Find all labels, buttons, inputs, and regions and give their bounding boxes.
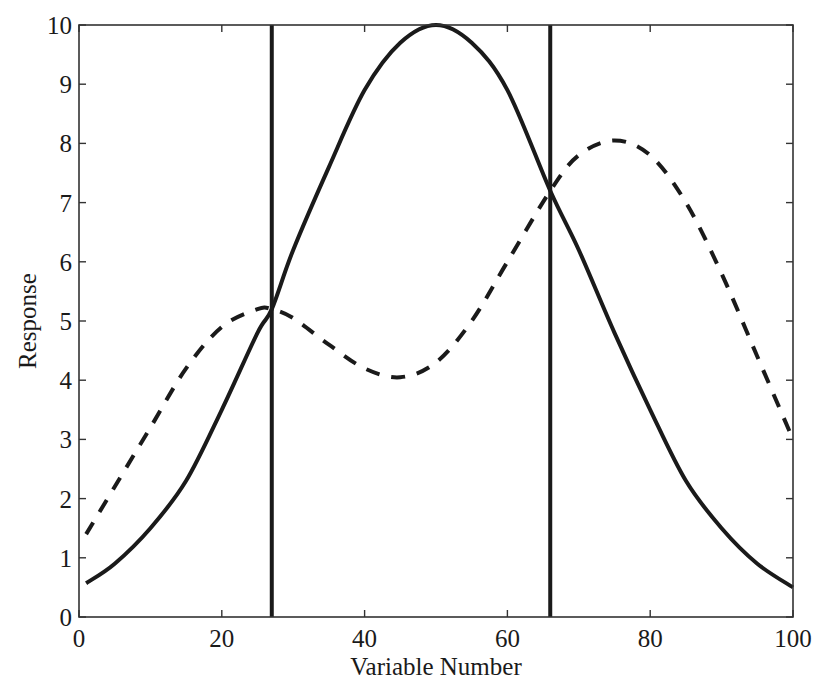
- y-tick-label: 4: [60, 367, 73, 394]
- chart: 020406080100 012345678910 Variable Numbe…: [0, 0, 828, 694]
- y-tick-label: 5: [60, 308, 73, 335]
- x-tick-label: 100: [774, 625, 812, 652]
- y-tick-label: 8: [60, 130, 73, 157]
- y-tick-label: 1: [60, 545, 73, 572]
- y-axis-label: Response: [14, 273, 41, 369]
- y-tick-label: 7: [60, 190, 73, 217]
- y-tick-label: 9: [60, 71, 73, 98]
- plot-curves: [86, 25, 793, 587]
- x-tick-label: 0: [73, 625, 86, 652]
- x-tick-labels: 020406080100: [73, 625, 812, 652]
- y-tick-label: 6: [60, 249, 73, 276]
- y-tick-label: 3: [60, 426, 73, 453]
- x-axis-label: Variable Number: [350, 653, 522, 680]
- y-tick-label: 10: [47, 12, 72, 39]
- x-tick-label: 20: [209, 625, 234, 652]
- vertical-markers: [272, 25, 550, 617]
- y-tick-label: 2: [60, 486, 73, 513]
- x-tick-label: 80: [638, 625, 663, 652]
- series-solid-line: [86, 25, 793, 587]
- axis-ticks: [79, 25, 793, 617]
- plot-frame: [79, 25, 793, 617]
- y-tick-label: 0: [60, 604, 73, 631]
- y-tick-labels: 012345678910: [47, 12, 73, 631]
- line-chart: 020406080100 012345678910 Variable Numbe…: [0, 0, 828, 694]
- x-tick-label: 60: [495, 625, 520, 652]
- series-dashed-line: [86, 140, 793, 534]
- x-tick-label: 40: [352, 625, 377, 652]
